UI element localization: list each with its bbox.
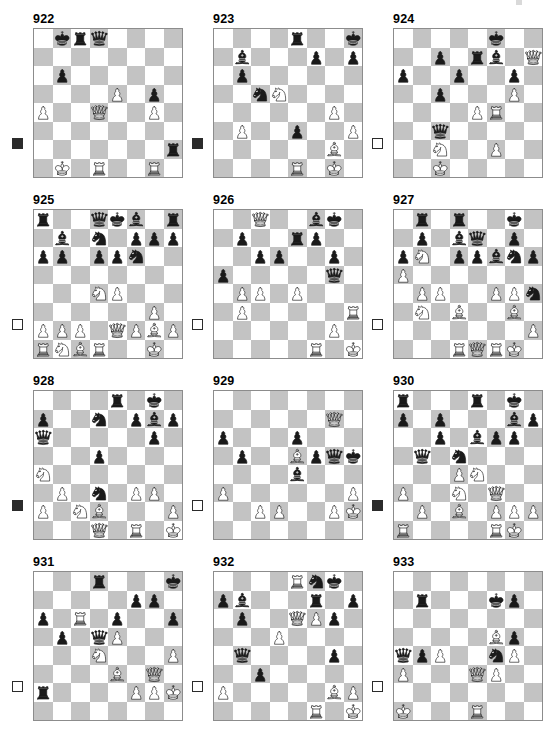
- square-f4: [307, 103, 326, 122]
- square-g6: [325, 66, 344, 85]
- square-d7: [90, 48, 109, 67]
- square-d3: [90, 665, 109, 684]
- square-a5: [394, 447, 413, 466]
- white-rook-icon: [90, 159, 109, 178]
- black-pawn-icon: [90, 447, 109, 466]
- black-rook-icon: [468, 391, 487, 410]
- black-rook-icon: [307, 591, 326, 610]
- white-rook-icon: [288, 572, 307, 591]
- square-h7: [164, 410, 183, 429]
- white-pawn-icon: [325, 321, 344, 340]
- square-e5: [468, 447, 487, 466]
- white-queen-icon: [487, 484, 506, 503]
- square-e5: [108, 85, 127, 104]
- square-e1: [468, 521, 487, 540]
- square-a8: [34, 572, 53, 591]
- square-d6: [450, 247, 469, 266]
- black-pawn-icon: [431, 410, 450, 429]
- square-e2: [468, 683, 487, 702]
- square-g2: [505, 140, 524, 159]
- white-queen-icon: [325, 410, 344, 429]
- black-pawn-icon: [344, 48, 363, 67]
- square-d4: [450, 284, 469, 303]
- square-a4: [214, 646, 233, 665]
- square-f7: [307, 591, 326, 610]
- square-h8: [164, 210, 183, 229]
- square-e5: [468, 266, 487, 285]
- square-d8: [90, 29, 109, 48]
- square-b7: [233, 48, 252, 67]
- square-d1: [270, 521, 289, 540]
- square-e3: [108, 665, 127, 684]
- square-e6: [468, 609, 487, 628]
- puzzle-922: 922: [4, 10, 184, 191]
- square-d5: [90, 266, 109, 285]
- square-a6: [214, 66, 233, 85]
- black-pawn-icon: [505, 591, 524, 610]
- white-pawn-icon: [487, 140, 506, 159]
- white-pawn-icon: [53, 321, 72, 340]
- square-c4: [431, 465, 450, 484]
- white-pawn-icon: [108, 85, 127, 104]
- square-a3: [394, 665, 413, 684]
- square-c2: [71, 321, 90, 340]
- black-pawn-icon: [524, 410, 543, 429]
- square-h8: [524, 391, 543, 410]
- square-f1: [307, 340, 326, 359]
- square-a1: [34, 159, 53, 178]
- square-h2: [524, 140, 543, 159]
- square-d5: [450, 85, 469, 104]
- square-a1: [214, 159, 233, 178]
- square-a5: [214, 628, 233, 647]
- square-c1: [251, 340, 270, 359]
- square-b1: [233, 340, 252, 359]
- square-a1: [34, 702, 53, 721]
- square-d1: [270, 340, 289, 359]
- square-a7: [34, 229, 53, 248]
- white-rook-icon: [487, 103, 506, 122]
- square-c7: [71, 48, 90, 67]
- square-b4: [413, 465, 432, 484]
- square-h6: [164, 428, 183, 447]
- black-pawn-icon: [233, 229, 252, 248]
- chessboard: [393, 28, 543, 178]
- square-b3: [233, 122, 252, 141]
- black-pawn-icon: [505, 66, 524, 85]
- square-b7: [413, 48, 432, 67]
- square-a6: [34, 609, 53, 628]
- square-h4: [344, 646, 363, 665]
- square-g5: [325, 266, 344, 285]
- square-e8: [288, 210, 307, 229]
- square-b6: [233, 247, 252, 266]
- square-c3: [431, 303, 450, 322]
- black-king-icon: [505, 210, 524, 229]
- square-b2: [233, 321, 252, 340]
- white-pawn-icon: [164, 646, 183, 665]
- square-c1: [431, 340, 450, 359]
- square-a2: [34, 683, 53, 702]
- square-h2: [524, 502, 543, 521]
- square-c2: [431, 321, 450, 340]
- square-d8: [450, 210, 469, 229]
- square-f1: [127, 521, 146, 540]
- square-f7: [127, 591, 146, 610]
- square-g8: [325, 572, 344, 591]
- square-f4: [487, 646, 506, 665]
- square-a6: [394, 66, 413, 85]
- chessboard: [213, 209, 363, 359]
- square-a7: [394, 229, 413, 248]
- square-b2: [53, 321, 72, 340]
- square-a2: [214, 140, 233, 159]
- square-f4: [127, 284, 146, 303]
- square-h4: [344, 103, 363, 122]
- white-pawn-icon: [145, 484, 164, 503]
- square-h2: [344, 683, 363, 702]
- square-g5: [505, 85, 524, 104]
- square-h1: [524, 159, 543, 178]
- square-f3: [127, 665, 146, 684]
- square-c5: [251, 628, 270, 647]
- white-pawn-icon: [344, 484, 363, 503]
- square-f1: [487, 340, 506, 359]
- square-e2: [108, 321, 127, 340]
- square-e1: [108, 340, 127, 359]
